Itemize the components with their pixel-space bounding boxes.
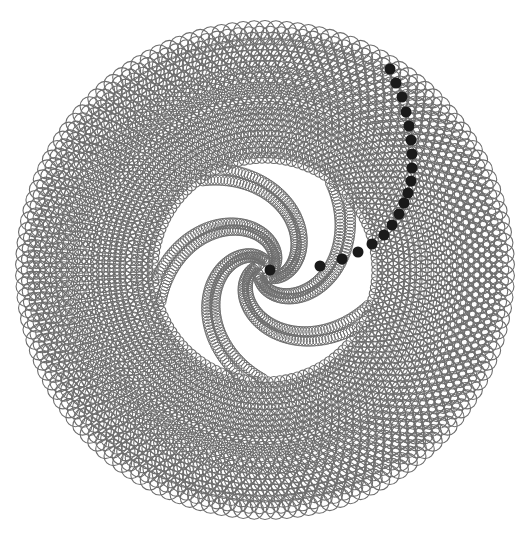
highlighted-dot [406, 135, 417, 146]
ring-circle [16, 277, 35, 296]
ring-circle [495, 244, 514, 263]
ring-circle [482, 180, 501, 199]
highlighted-dot [391, 78, 402, 89]
highlighted-dot [394, 209, 405, 220]
ring-circle [457, 314, 474, 331]
highlighted-dot [385, 64, 396, 75]
highlighted-dot [367, 239, 378, 250]
ring-circle [341, 36, 360, 55]
ring-circle [488, 320, 507, 339]
ring-circle [341, 485, 360, 504]
diagram-canvas [0, 0, 523, 543]
ring-circle [80, 97, 99, 116]
highlighted-dot [403, 188, 414, 199]
ring-circle [33, 261, 51, 279]
highlighted-dot [407, 163, 418, 174]
ring-circle [16, 266, 35, 285]
ring-circle [320, 29, 339, 48]
ring-circle [495, 266, 514, 285]
highlighted-dot [353, 247, 364, 258]
ring-circle [88, 432, 107, 451]
spiral-circle [280, 194, 290, 204]
ring-circle [117, 79, 135, 97]
ring-circle [198, 488, 217, 507]
highlighted-dot [404, 121, 415, 132]
highlighted-dot [387, 220, 398, 231]
ring-circle [17, 288, 36, 307]
ring-circle [201, 494, 220, 513]
ring-circle [310, 27, 329, 46]
highlighted-dot [399, 198, 410, 209]
ring-circle [331, 33, 350, 52]
spiral-circle [274, 188, 284, 198]
ring-circle [88, 97, 107, 116]
highlighted-dot [265, 265, 276, 276]
highlighted-dot [401, 107, 412, 118]
ring-circle [80, 424, 99, 443]
spiral-circle [282, 196, 292, 206]
spiral-circle [276, 190, 286, 200]
ring-circle [482, 341, 501, 360]
ring-circle [484, 314, 503, 333]
spiral-circle-diagram [0, 0, 523, 543]
highlighted-dot [337, 254, 348, 265]
ring-circle [331, 488, 350, 507]
spiral-circle [173, 241, 183, 251]
ring-circle [88, 425, 107, 444]
highlighted-dot [406, 176, 417, 187]
highlighted-dot [397, 92, 408, 103]
ring-circle [33, 251, 51, 269]
ring-circle [88, 89, 107, 108]
ring-circle [481, 197, 500, 216]
ring-circle [485, 191, 504, 210]
ring-circle [33, 271, 51, 289]
ring-circle [495, 255, 514, 274]
ring-circle [495, 277, 514, 296]
ring-circle [16, 255, 35, 274]
ring-circle [16, 244, 35, 263]
ring-circle [485, 331, 504, 350]
highlighted-dot [407, 149, 418, 160]
ring-circle [481, 324, 500, 343]
ring-circle [494, 233, 513, 252]
highlighted-dot [379, 230, 390, 241]
ring-circle [117, 443, 135, 461]
spiral-circle [278, 192, 288, 202]
ring-circle [320, 492, 339, 511]
highlighted-dot [315, 261, 326, 272]
